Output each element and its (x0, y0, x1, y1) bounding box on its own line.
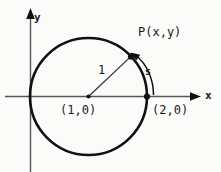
x-intercept-point-marker (144, 93, 150, 99)
center-point-label: (1,0) (60, 104, 96, 116)
x-intercept-label: (2,0) (152, 104, 188, 116)
center-point-marker (86, 94, 90, 98)
point-p-label: P(x,y) (138, 26, 181, 38)
x-axis-arrowhead (190, 92, 201, 101)
y-axis-label: y (34, 12, 41, 23)
radius-label: 1 (98, 64, 105, 76)
figure-canvas (0, 0, 221, 172)
radius-segment (89, 56, 132, 96)
arc-length-label: s (145, 67, 151, 77)
math-figure-unit-circle: y x P(x,y) 1 s (1,0) (2,0) (0, 0, 221, 172)
x-axis-label: x (205, 90, 212, 101)
